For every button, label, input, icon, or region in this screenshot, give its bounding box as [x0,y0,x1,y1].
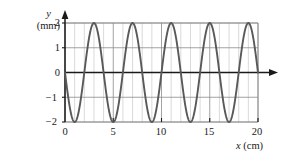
x-tick-label-5: 5 [101,127,125,137]
y-tick-label-1: 1 [42,43,60,53]
y-tick-label-neg1: −1 [39,93,57,103]
x-tick-label-0: 0 [53,127,77,137]
y-tick-label-2: 2 [42,18,60,28]
x-axis-variable: x [236,140,241,151]
x-tick-label-15: 15 [197,127,221,137]
x-axis-arrowhead [269,69,278,76]
y-tick-label-0: 0 [42,68,60,78]
x-tick-label-10: 10 [149,127,173,137]
x-tick-label-20: 20 [245,127,269,137]
y-axis-arrowhead [62,10,69,19]
wave-graph-figure: y (mm) x (cm) 2 1 0 −1 −2 0 5 10 15 20 [0,0,294,162]
x-axis-label: x (cm) [236,140,263,151]
x-axis-unit: (cm) [243,140,263,151]
y-tick-label-neg2: −2 [39,117,57,127]
